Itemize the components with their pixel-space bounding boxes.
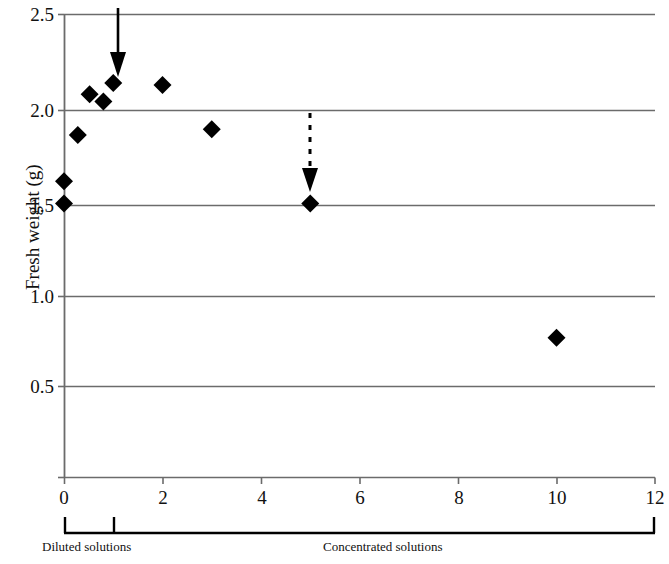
y-tick-label-2-5: 2.5 <box>8 5 54 24</box>
x-tick-label-2: 2 <box>143 488 183 507</box>
x-tick-label-12: 12 <box>635 488 669 507</box>
y-axis-title: Fresh weight (g) <box>22 164 44 290</box>
y-tick-label-2-0: 2.0 <box>8 101 54 120</box>
x-tick-label-6: 6 <box>340 488 380 507</box>
bracket-label-diluted: Diluted solutions <box>42 540 131 554</box>
x-tick-label-4: 4 <box>242 488 282 507</box>
y-tick-label-0-5: 0.5 <box>8 377 54 396</box>
bracket-label-concentrated: Concentrated solutions <box>323 540 443 554</box>
x-tick-label-10: 10 <box>537 488 577 507</box>
x-tick-label-0: 0 <box>44 488 84 507</box>
x-tick-label-8: 8 <box>439 488 479 507</box>
